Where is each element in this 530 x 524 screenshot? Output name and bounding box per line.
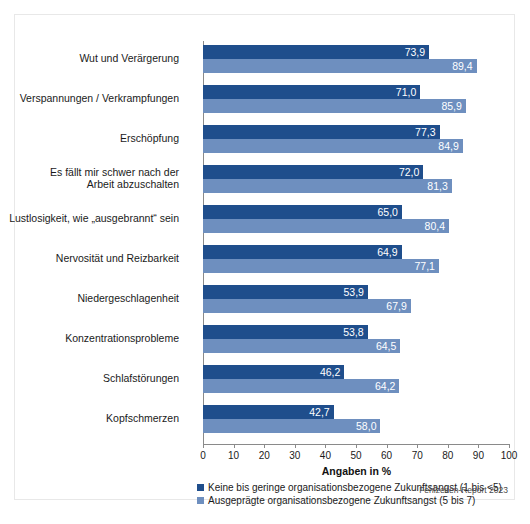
bar-low-anxiety[interactable]: 73,9 — [203, 45, 429, 59]
category-label: Lustlosigkeit, wie „ausgebrannt“ sein — [0, 212, 179, 225]
x-tick-label: 80 — [442, 450, 453, 461]
bar-value-label: 42,7 — [309, 405, 329, 419]
x-tick — [234, 444, 235, 448]
bar-high-anxiety[interactable]: 89,4 — [203, 59, 477, 73]
category-label: Wut und Verärgerung — [0, 52, 179, 65]
x-tick — [264, 444, 265, 448]
x-tick-label: 70 — [412, 450, 423, 461]
bar-value-label: 77,3 — [415, 125, 435, 139]
x-tick-label: 10 — [228, 450, 239, 461]
bar-low-anxiety[interactable]: 64,9 — [203, 245, 402, 259]
bar-low-anxiety[interactable]: 53,9 — [203, 285, 368, 299]
x-axis-title: Angaben in % — [203, 465, 510, 477]
category-label: Verspannungen / Verkrampfungen — [0, 92, 179, 105]
legend-label-1: Ausgeprägte organisationsbezogene Zukunf… — [208, 495, 475, 506]
bar-value-label: 84,9 — [438, 139, 458, 153]
x-tick — [448, 444, 449, 448]
x-tick — [325, 444, 326, 448]
bar-value-label: 67,9 — [386, 299, 406, 313]
x-tick — [203, 444, 204, 448]
x-tick — [509, 444, 510, 448]
bar-value-label: 80,4 — [425, 219, 445, 233]
source-note: Fehlzeiten-Report 2023 — [419, 485, 508, 495]
bar-value-label: 46,2 — [320, 365, 340, 379]
chart-figure: 73,989,471,085,977,384,972,081,365,080,4… — [0, 0, 530, 524]
bar-high-anxiety[interactable]: 85,9 — [203, 99, 466, 113]
bar-value-label: 81,3 — [427, 179, 447, 193]
x-tick-label: 50 — [350, 450, 361, 461]
bar-low-anxiety[interactable]: 53,8 — [203, 325, 368, 339]
bar-value-label: 65,0 — [377, 205, 397, 219]
bar-high-anxiety[interactable]: 80,4 — [203, 219, 449, 233]
bar-low-anxiety[interactable]: 72,0 — [203, 165, 423, 179]
x-tick-label: 40 — [320, 450, 331, 461]
x-tick-label: 30 — [289, 450, 300, 461]
x-tick-label: 100 — [501, 450, 518, 461]
bar-value-label: 73,9 — [405, 45, 425, 59]
bar-high-anxiety[interactable]: 84,9 — [203, 139, 463, 153]
bar-low-anxiety[interactable]: 42,7 — [203, 405, 334, 419]
x-tick-label: 90 — [473, 450, 484, 461]
bar-value-label: 77,1 — [414, 259, 434, 273]
category-label: Kopfschmerzen — [0, 412, 179, 425]
x-tick — [356, 444, 357, 448]
x-tick — [478, 444, 479, 448]
category-label: Niedergeschlagenheit — [0, 292, 179, 305]
bar-value-label: 71,0 — [396, 85, 416, 99]
legend-item-1[interactable]: Ausgeprägte organisationsbezogene Zukunf… — [197, 494, 502, 507]
x-tick — [417, 444, 418, 448]
category-label: Nervosität und Reizbarkeit — [0, 252, 179, 265]
bar-value-label: 72,0 — [399, 165, 419, 179]
legend-swatch-icon-dark — [197, 484, 204, 491]
bar-value-label: 64,2 — [375, 379, 395, 393]
legend-swatch-icon-light — [197, 497, 204, 504]
category-label: Schlafstörungen — [0, 372, 179, 385]
bar-low-anxiety[interactable]: 46,2 — [203, 365, 344, 379]
bar-value-label: 89,4 — [452, 59, 472, 73]
x-tick — [387, 444, 388, 448]
bar-value-label: 58,0 — [356, 419, 376, 433]
bar-value-label: 64,5 — [376, 339, 396, 353]
bar-high-anxiety[interactable]: 67,9 — [203, 299, 411, 313]
bar-low-anxiety[interactable]: 71,0 — [203, 85, 420, 99]
category-label: Es fällt mir schwer nach der Arbeit abzu… — [0, 166, 179, 191]
x-tick-label: 20 — [259, 450, 270, 461]
bar-low-anxiety[interactable]: 65,0 — [203, 205, 402, 219]
chart-frame: 73,989,471,085,977,384,972,081,365,080,4… — [14, 14, 515, 500]
bar-high-anxiety[interactable]: 81,3 — [203, 179, 452, 193]
category-label: Erschöpfung — [0, 132, 179, 145]
bar-value-label: 64,9 — [377, 245, 397, 259]
bar-value-label: 53,9 — [343, 285, 363, 299]
bar-high-anxiety[interactable]: 58,0 — [203, 419, 380, 433]
x-tick-label: 60 — [381, 450, 392, 461]
bar-high-anxiety[interactable]: 64,5 — [203, 339, 400, 353]
bar-low-anxiety[interactable]: 77,3 — [203, 125, 440, 139]
bar-high-anxiety[interactable]: 77,1 — [203, 259, 439, 273]
bar-value-label: 85,9 — [441, 99, 461, 113]
bar-value-label: 53,8 — [343, 325, 363, 339]
x-tick-label: 0 — [200, 450, 206, 461]
bar-high-anxiety[interactable]: 64,2 — [203, 379, 399, 393]
category-label: Konzentrationsprobleme — [0, 332, 179, 345]
x-tick — [295, 444, 296, 448]
